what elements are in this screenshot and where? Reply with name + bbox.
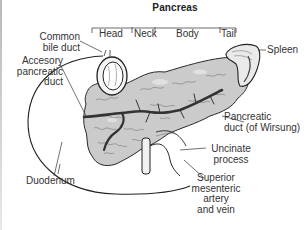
pancreas-diagram: Pancreas <box>0 0 308 230</box>
label-pancreatic-duct: Pancreatic duct (of Wirsung) <box>224 112 300 133</box>
label-superior-mesenteric-artery-vein: Superior mesenteric artery and vein <box>190 173 242 215</box>
region-label-tail: Tail <box>221 29 236 40</box>
label-uncinate-process: Uncinate process <box>206 144 256 165</box>
label-spleen: Spleen <box>267 45 298 56</box>
region-label-body: Body <box>176 29 199 40</box>
region-label-neck: Neck <box>134 29 157 40</box>
region-label-head: Head <box>99 29 123 40</box>
bile-duct-ring <box>97 50 127 95</box>
label-common-bile-duct: Common bile duct <box>28 32 80 53</box>
label-accessory-pancreatic-duct: Accesory pancreatic duct <box>8 56 63 88</box>
label-duodenum: Duodenum <box>26 176 75 187</box>
